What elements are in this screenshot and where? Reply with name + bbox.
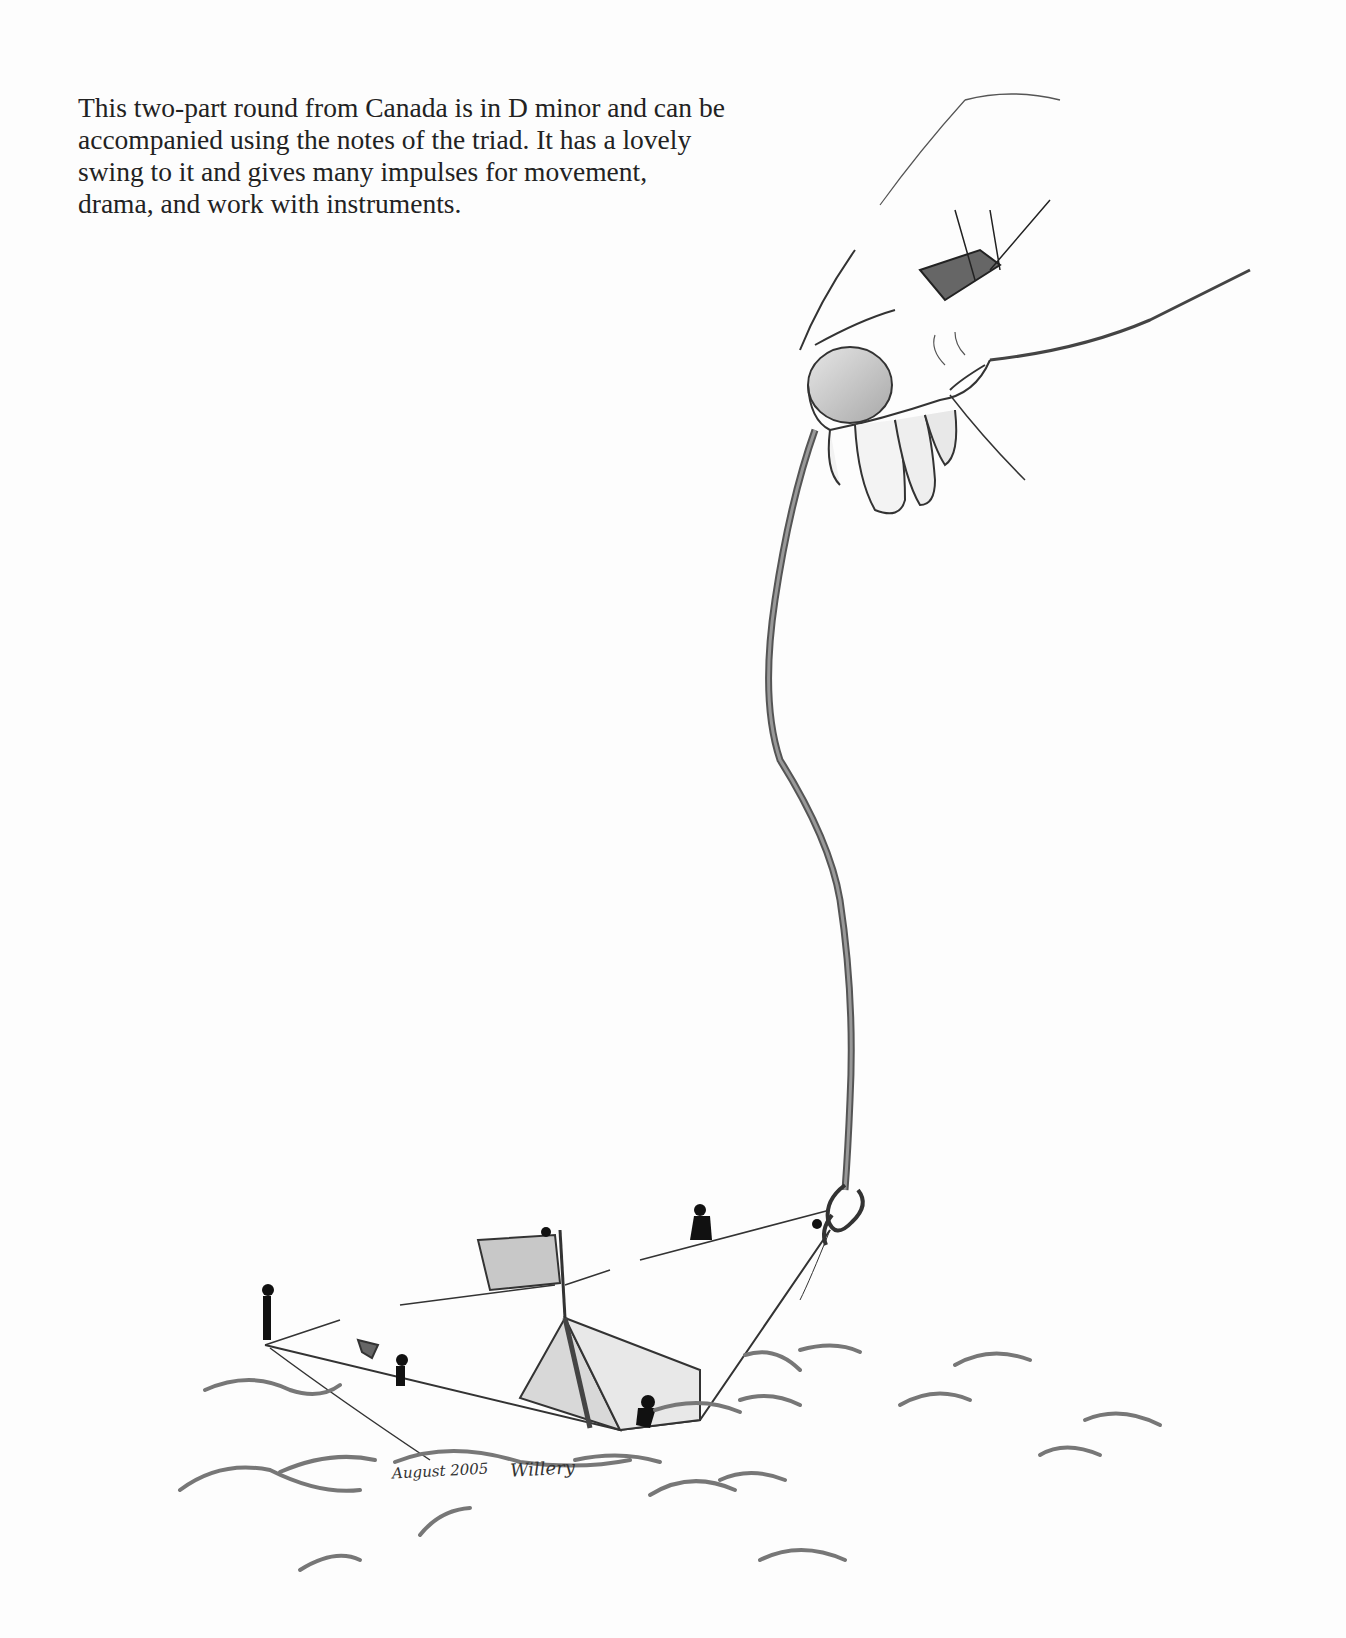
illustration (0, 0, 1346, 1638)
rope-drawing (769, 430, 852, 1190)
hook-drawing (824, 1185, 863, 1245)
hand-drawing (800, 94, 1250, 513)
book-page: This two-part round from Canada is in D … (0, 0, 1346, 1638)
signature-name: Willery (509, 1456, 575, 1480)
paper-boat-drawing (262, 1204, 830, 1460)
